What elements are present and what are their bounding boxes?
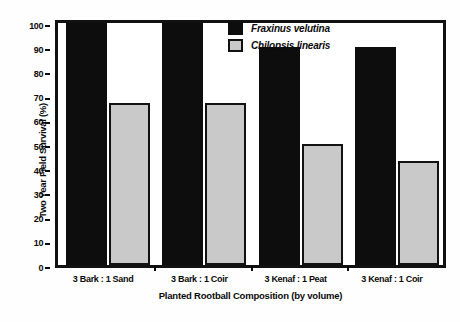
bar <box>302 144 343 265</box>
legend-swatch <box>228 39 243 52</box>
bar <box>162 23 203 265</box>
y-axis-tick-label: 100 <box>29 21 43 30</box>
x-axis-tick-label: 3 Kenaf : 1 Peat <box>248 274 344 284</box>
y-axis-tick-mark <box>45 267 50 269</box>
y-axis-tick-labels: 0102030405060708090100 <box>28 26 50 268</box>
y-axis-tick-label: 50 <box>34 142 43 151</box>
y-axis-tick-label: 80 <box>34 69 43 78</box>
y-axis-tick-label: 70 <box>34 94 43 103</box>
bar <box>398 161 439 265</box>
x-axis-tick-label: 3 Bark : 1 Coir <box>151 274 247 284</box>
y-axis-tick-mark <box>45 170 50 172</box>
y-axis-tick-mark <box>45 243 50 245</box>
bar-group <box>251 23 347 265</box>
y-axis-tick-mark <box>45 49 50 51</box>
y-axis-tick-label: 20 <box>34 215 43 224</box>
legend-label: Chilopsis linearis <box>251 40 330 51</box>
plot-area <box>55 20 446 268</box>
y-axis-tick-mark <box>45 146 50 148</box>
bar <box>109 103 150 265</box>
x-axis-tick-label: 3 Bark : 1 Sand <box>55 274 151 284</box>
y-axis-tick-label: 30 <box>34 190 43 199</box>
y-axis-tick-label: 40 <box>34 166 43 175</box>
bar-group <box>58 23 154 265</box>
x-axis-tick-labels: 3 Bark : 1 Sand3 Bark : 1 Coir3 Kenaf : … <box>55 274 446 288</box>
x-axis-tick-mark <box>251 265 253 271</box>
x-axis-title: Planted Rootball Composition (by volume) <box>55 290 446 301</box>
y-axis-tick-label: 10 <box>34 239 43 248</box>
y-axis-tick-mark <box>45 122 50 124</box>
bar-group <box>154 23 250 265</box>
legend-swatch <box>228 22 243 35</box>
x-axis-tick-mark <box>154 265 156 271</box>
y-axis-tick-mark <box>45 194 50 196</box>
legend-item: Fraxinus velutina <box>228 22 403 35</box>
y-axis-tick-label: 90 <box>34 45 43 54</box>
x-axis-tick-label: 3 Kenaf : 1 Coir <box>344 274 440 284</box>
y-axis-tick-mark <box>45 73 50 75</box>
bar <box>66 23 107 265</box>
bar-group <box>347 23 443 265</box>
y-axis-tick-label: 60 <box>34 118 43 127</box>
legend-label: Fraxinus velutina <box>251 23 330 34</box>
y-axis-tick-mark <box>45 219 50 221</box>
chart-legend: Fraxinus velutinaChilopsis linearis <box>228 22 403 56</box>
plot-inner <box>58 23 443 265</box>
legend-item: Chilopsis linearis <box>228 39 403 52</box>
bar <box>355 47 396 265</box>
bar-chart-figure: Two Year Field Survival (%) 010203040506… <box>0 0 460 322</box>
y-axis-tick-mark <box>45 98 50 100</box>
y-axis-tick-mark <box>45 25 50 27</box>
x-axis-tick-mark <box>347 265 349 271</box>
bar <box>259 47 300 265</box>
bar <box>205 103 246 265</box>
y-axis-tick-label: 0 <box>38 263 43 272</box>
